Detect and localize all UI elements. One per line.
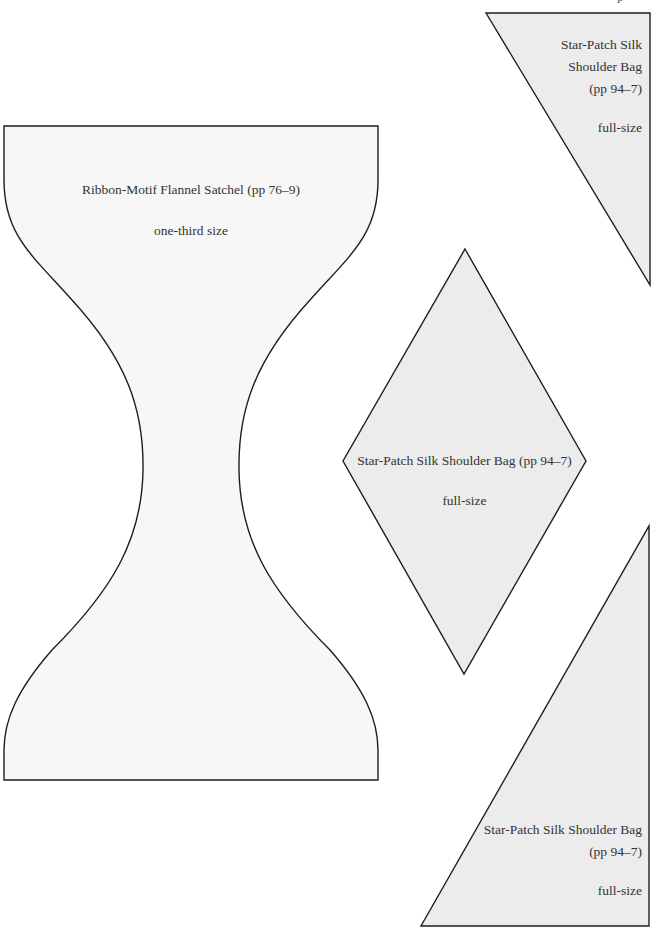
satchel-title: Ribbon-Motif Flannel Satchel (pp 76–9)	[4, 181, 378, 199]
diamond-title: Star-Patch Silk Shoulder Bag (pp 94–7)	[343, 452, 586, 470]
triangle-top-title-line-2: Shoulder Bag	[568, 58, 642, 76]
diamond-scale: full-size	[343, 492, 586, 510]
satchel-scale: one-third size	[4, 222, 378, 240]
triangle-bottom-scale: full-size	[598, 882, 642, 900]
triangle-top-title-line-3: (pp 94–7)	[589, 80, 642, 98]
triangle-top-title-line-1: Star-Patch Silk	[561, 36, 642, 54]
triangle-bottom-title-line-2: (pp 94–7)	[589, 843, 642, 861]
triangle-top-scale: full-size	[598, 119, 642, 137]
triangle-bottom-title-line-1: Star-Patch Silk Shoulder Bag	[484, 821, 642, 839]
